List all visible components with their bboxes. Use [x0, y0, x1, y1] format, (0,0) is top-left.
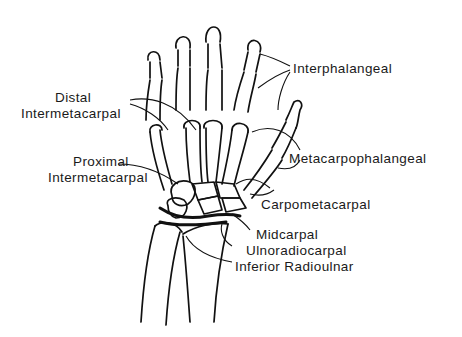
radiocarpal-line — [160, 222, 226, 225]
hand-skeleton-drawing — [0, 0, 462, 337]
metacarpal-1 — [244, 150, 282, 198]
ulna-inner — [166, 232, 180, 325]
metacarpal-5 — [150, 130, 172, 190]
index-finger-proximal — [234, 72, 256, 112]
metacarpal-3 — [206, 128, 222, 182]
ring-finger-proximal — [176, 68, 190, 110]
label-ulnoradiocarpal: Ulnoradiocarpal — [246, 243, 347, 258]
index-finger-tip — [248, 40, 261, 52]
label-interphalangeal: Interphalangeal — [293, 61, 392, 76]
metacarpal-2 — [222, 130, 248, 186]
label-metacarpophalangeal: Metacarpophalangeal — [289, 151, 426, 166]
middle-finger-tip — [206, 27, 221, 42]
thumb-distal — [286, 101, 302, 128]
label-proximal-intermetacarpal-line2: Intermetacarpal — [48, 170, 148, 185]
label-midcarpal: Midcarpal — [256, 227, 318, 242]
label-distal-intermetacarpal-line1: Distal — [55, 90, 91, 105]
hand-joints-diagram: Interphalangeal Distal Intermetacarpal P… — [0, 0, 462, 337]
radius-inner — [183, 236, 190, 322]
radius-outline — [214, 224, 228, 322]
label-distal-intermetacarpal-line2: Intermetacarpal — [21, 106, 121, 121]
ring-finger-tip — [176, 37, 190, 48]
label-proximal-intermetacarpal-line1: Proximal — [73, 154, 129, 169]
ulna-outline — [141, 226, 155, 322]
pointer-interphalangeal — [260, 54, 290, 66]
middle-finger-proximal — [206, 70, 222, 110]
metacarpal-4 — [186, 128, 202, 182]
label-inferior-radioulnar: Inferior Radioulnar — [235, 259, 354, 274]
little-finger-tip — [148, 52, 160, 60]
label-carpometacarpal: Carpometacarpal — [261, 197, 371, 212]
pointer-metacarpophalangeal — [252, 129, 300, 150]
pointer-distal-intermetacarpal — [130, 99, 196, 130]
